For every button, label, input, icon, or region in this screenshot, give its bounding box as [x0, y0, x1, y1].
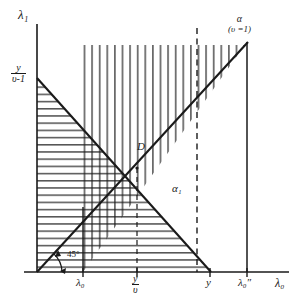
y-over-v-denominator: υ: [132, 284, 139, 295]
alpha-top-label: α (υ =1): [228, 14, 251, 34]
diagram-svg: [0, 0, 306, 298]
alpha-one-label: α₁: [172, 183, 182, 194]
tick-label-y-over-v: y υ: [132, 274, 139, 295]
y-over-v-numerator: y: [132, 274, 139, 284]
y-intercept-label: y υ-1: [11, 63, 26, 84]
figure-canvas: λ₁ λ₀ y υ-1 α (υ =1) α₁ D 45° λ₀ y υ y λ…: [0, 0, 306, 298]
x-axis-label: λ₀: [275, 277, 284, 289]
angle-45-label: 45°: [67, 250, 80, 259]
tick-label-lambda0-prime: λ₀″: [238, 277, 251, 288]
tick-label-y: y: [206, 277, 211, 288]
tick-label-lambda0: λ₀: [76, 277, 85, 288]
alpha-symbol: α: [237, 13, 242, 24]
point-d-label: D: [137, 141, 145, 152]
alpha-condition: (υ =1): [228, 24, 251, 34]
y-intercept-denominator: υ-1: [11, 73, 26, 84]
point-d-marker: [135, 166, 138, 169]
y-axis-label: λ₁: [18, 8, 28, 21]
y-intercept-numerator: y: [11, 63, 26, 73]
